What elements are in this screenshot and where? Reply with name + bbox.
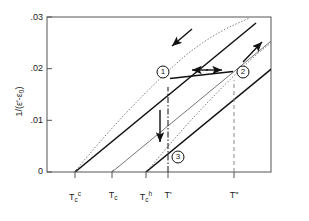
x-tick-sup: c — [78, 190, 81, 197]
x-tick-sub: c — [145, 196, 148, 203]
y-axis-label: 1/(ε'-ε0) — [14, 57, 25, 147]
x-tick-sup: h — [149, 190, 153, 197]
y-tick-label-0: 0 — [5, 166, 43, 176]
series-heating-dotted — [136, 20, 309, 185]
figure-container: .03 .02 .01 0 1/(ε'-ε0) Tcc Tc Tch T' T"… — [0, 0, 309, 221]
marker-label-1: 1 — [157, 66, 169, 78]
y-axis-ticks — [47, 17, 52, 172]
marker-label-3: 3 — [172, 151, 184, 163]
x-tick-label-t-prime: T' — [156, 190, 180, 200]
x-tick-prime: " — [235, 190, 238, 200]
arrow-up-right — [243, 42, 262, 62]
x-tick-label-t-double-prime: T" — [222, 190, 246, 200]
y-tick-label-0.03: .03 — [5, 12, 43, 22]
y-axis-label-tail: ) — [14, 87, 24, 90]
y-axis-label-main: 1/(ε'-ε — [14, 93, 24, 116]
x-tick-sub: c — [114, 194, 117, 201]
y-axis-label-sub: 0 — [18, 90, 25, 94]
arrow-down-left-upper — [172, 29, 192, 46]
x-tick-sub: c — [75, 196, 78, 203]
x-tick-label-tc-cool: Tcc — [61, 190, 89, 203]
transition-segment — [170, 72, 233, 79]
series-heating-branch — [146, 38, 309, 172]
x-axis-ticks — [75, 172, 234, 178]
x-tick-prime: ' — [170, 190, 172, 200]
marker-label-2: 2 — [237, 66, 249, 78]
intercept-dash-extensions — [66, 169, 149, 179]
plot-frame — [47, 17, 271, 172]
chart-plot-area — [0, 0, 309, 221]
x-tick-label-tc: Tc — [99, 190, 127, 201]
series-equilibrium-branch — [112, 23, 293, 172]
